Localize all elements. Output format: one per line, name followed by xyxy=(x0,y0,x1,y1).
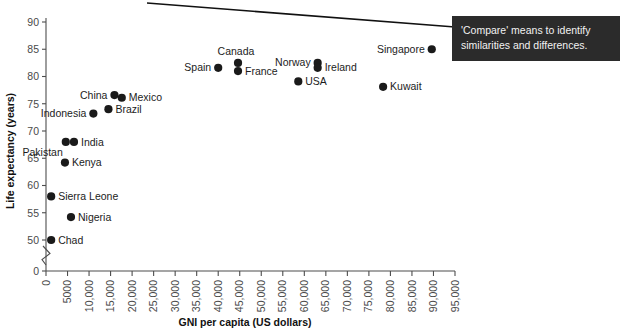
data-point-label: Brazil xyxy=(115,103,141,115)
data-point: Kenya xyxy=(61,156,102,168)
data-point: Nigeria xyxy=(67,211,112,223)
data-point-label: Kenya xyxy=(72,156,102,168)
data-point: Singapore xyxy=(377,43,436,55)
data-point-marker xyxy=(104,105,112,113)
x-tick-label: 90,000 xyxy=(427,280,439,312)
y-tick-label: 75 xyxy=(27,98,39,110)
data-point-marker xyxy=(234,67,242,75)
callout-line-1: 'Compare' means to identify xyxy=(461,23,611,38)
data-point-label: USA xyxy=(305,75,327,87)
data-point-marker xyxy=(118,94,126,102)
data-point: France xyxy=(234,65,278,77)
data-point-label: Kuwait xyxy=(390,80,422,92)
data-point: Indonesia xyxy=(41,107,98,119)
y-tick-label: 70 xyxy=(27,125,39,137)
y-tick-label: 0 xyxy=(33,265,39,277)
data-point-label: Ireland xyxy=(325,61,357,73)
x-tick-label: 10,000 xyxy=(83,280,95,312)
data-point: Spain xyxy=(184,61,222,73)
data-point-marker xyxy=(89,109,97,117)
callout-box: 'Compare' means to identify similarities… xyxy=(452,16,620,61)
data-point-label: Indonesia xyxy=(41,107,87,119)
data-point-label: Singapore xyxy=(377,43,425,55)
y-tick-label: 50 xyxy=(27,234,39,246)
data-point-marker xyxy=(70,138,78,146)
x-tick-label: 0 xyxy=(40,280,52,286)
data-point: Kuwait xyxy=(379,80,422,92)
y-axis-title: Life expectancy (years) xyxy=(4,93,16,209)
data-point-marker xyxy=(47,236,55,244)
x-tick-label: 25,000 xyxy=(147,280,159,312)
y-tick-label: 55 xyxy=(27,207,39,219)
x-tick-label: 85,000 xyxy=(406,280,418,312)
x-tick-label: 65,000 xyxy=(319,280,331,312)
x-tick-label: 55,000 xyxy=(276,280,288,312)
data-point: China xyxy=(80,89,119,101)
data-point-label: Norway xyxy=(275,56,311,68)
x-tick-label: 45,000 xyxy=(233,280,245,312)
data-point-marker xyxy=(214,64,222,72)
callout-line-2: similarities and differences. xyxy=(461,38,611,53)
data-point: Chad xyxy=(47,234,83,246)
data-point: Sierra Leone xyxy=(47,190,118,202)
data-point-marker xyxy=(110,91,118,99)
y-tick-label: 85 xyxy=(27,43,39,55)
y-tick-label: 60 xyxy=(27,179,39,191)
y-tick-label: 80 xyxy=(27,70,39,82)
data-point-marker xyxy=(62,138,70,146)
x-tick-label: 75,000 xyxy=(362,280,374,312)
x-tick-label: 15,000 xyxy=(104,280,116,312)
data-point-marker xyxy=(47,192,55,200)
data-point-marker xyxy=(67,213,75,221)
x-tick-label: 20,000 xyxy=(126,280,138,312)
data-point: India xyxy=(70,136,104,148)
x-tick-label: 30,000 xyxy=(169,280,181,312)
data-point-label: Mexico xyxy=(129,91,162,103)
data-point: Mexico xyxy=(118,91,163,103)
x-tick-label: 50,000 xyxy=(255,280,267,312)
data-point-marker xyxy=(314,64,322,72)
data-point: Brazil xyxy=(104,103,141,115)
data-point-label: Canada xyxy=(218,45,255,57)
data-point-label: Spain xyxy=(184,61,211,73)
data-point-marker xyxy=(379,83,387,91)
data-point-label: Sierra Leone xyxy=(58,190,118,202)
x-tick-label: 35,000 xyxy=(190,280,202,312)
x-tick-label: 5000 xyxy=(61,280,73,304)
x-tick-label: 70,000 xyxy=(341,280,353,312)
data-point-label: Chad xyxy=(58,234,83,246)
data-point-label: China xyxy=(80,89,108,101)
data-point-marker xyxy=(61,159,69,167)
x-tick-label: 80,000 xyxy=(384,280,396,312)
data-point-marker xyxy=(294,77,302,85)
x-tick-label: 95,000 xyxy=(449,280,461,312)
data-point-label: India xyxy=(81,136,104,148)
data-point-label: Pakistan xyxy=(23,146,63,158)
callout-leader-line xyxy=(147,3,455,27)
data-point: USA xyxy=(294,75,327,87)
x-tick-label: 60,000 xyxy=(298,280,310,312)
x-axis-title: GNI per capita (US dollars) xyxy=(178,316,311,328)
y-tick-label: 90 xyxy=(27,16,39,28)
scatter-chart: 05055606570758085900500010,00015,00020,0… xyxy=(0,0,620,332)
data-point-label: Nigeria xyxy=(78,211,111,223)
data-point-marker xyxy=(428,45,436,53)
data-point-marker xyxy=(234,59,242,67)
data-point-label: France xyxy=(245,65,278,77)
x-tick-label: 40,000 xyxy=(212,280,224,312)
